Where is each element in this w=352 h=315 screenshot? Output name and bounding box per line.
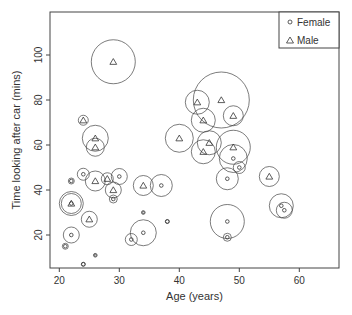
triangle-icon (230, 113, 237, 119)
bubble (142, 212, 144, 214)
circle-icon (142, 231, 146, 235)
x-axis: 2030405060 (54, 268, 306, 286)
bubble (185, 90, 209, 114)
circle-icon (70, 179, 74, 183)
bubble (216, 130, 250, 164)
bubble (105, 182, 121, 198)
x-tick-label: 50 (234, 275, 246, 286)
triangle-icon (92, 144, 99, 150)
circle-icon (166, 220, 170, 224)
bubble (59, 192, 83, 216)
bubble (94, 254, 96, 256)
triangle-icon (110, 59, 117, 65)
bubble-scatter-chart: 2030405060 20406080100 Age (years) Time … (0, 0, 352, 315)
x-tick-label: 60 (294, 275, 306, 286)
circle-icon (238, 166, 242, 170)
circle-icon (118, 175, 122, 179)
bubble-circles (59, 40, 293, 267)
circle-icon (64, 244, 68, 248)
circle-icon (283, 208, 287, 212)
y-axis: 20406080100 (33, 46, 50, 240)
bubble (223, 233, 231, 241)
x-axis-label: Age (years) (166, 290, 223, 302)
y-tick-label: 20 (33, 229, 44, 241)
bubble (130, 220, 156, 246)
triangle-icon (110, 187, 117, 193)
circle-icon (280, 204, 284, 208)
legend-label-male: Male (297, 35, 319, 46)
y-tick-label: 60 (33, 139, 44, 151)
bubble (61, 194, 81, 214)
circle-icon (232, 157, 236, 161)
bubble (91, 40, 135, 84)
bubble (191, 108, 215, 132)
bubble (223, 106, 243, 126)
bubble (109, 195, 117, 203)
bubble (259, 167, 279, 187)
y-tick-label: 80 (33, 94, 44, 106)
x-tick-label: 40 (174, 275, 186, 286)
plot-frame (50, 12, 339, 268)
legend-label-female: Female (297, 17, 331, 28)
point-markers (64, 59, 287, 267)
bubble (81, 211, 97, 227)
triangle-icon (140, 182, 147, 188)
bubble (269, 194, 293, 218)
y-axis-label: Time looking after car (mins) (10, 71, 22, 210)
triangle-icon (92, 178, 99, 184)
bubble (165, 124, 193, 152)
circle-icon (82, 172, 86, 176)
circle-icon (82, 262, 86, 266)
triangle-icon (86, 216, 93, 222)
y-tick-label: 100 (33, 46, 44, 63)
circle-icon (226, 177, 230, 181)
circle-icon (70, 233, 74, 237)
triangle-icon (200, 117, 207, 123)
x-tick-label: 20 (54, 275, 66, 286)
legend: Female Male (279, 12, 339, 48)
bubble (85, 171, 105, 191)
bubble (276, 202, 292, 218)
circle-icon (226, 220, 230, 224)
bubble (63, 227, 79, 243)
y-tick-label: 40 (33, 184, 44, 196)
x-tick-label: 30 (114, 275, 126, 286)
circle-icon (160, 184, 164, 188)
triangle-icon (176, 135, 183, 141)
triangle-icon (218, 97, 225, 103)
triangle-icon (194, 99, 201, 105)
triangle-icon (80, 117, 87, 123)
bubble (125, 234, 137, 246)
bubble (197, 131, 221, 155)
triangle-icon (266, 173, 273, 179)
